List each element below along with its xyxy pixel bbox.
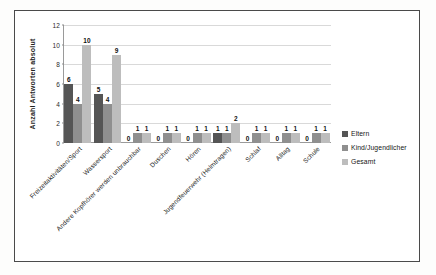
bar-value-label: 0	[186, 136, 190, 143]
bar: 1	[172, 133, 181, 143]
plot-wrapper: Anzahl Antworten absolut 024681012 64105…	[15, 11, 421, 263]
bar: 1	[291, 133, 300, 143]
bar-value-label: 1	[285, 126, 289, 133]
x-axis-tick-label: Duschen	[149, 145, 173, 169]
bar-value-label: 0	[305, 136, 309, 143]
bar-value-label: 0	[246, 136, 250, 143]
bar-value-label: 1	[294, 126, 298, 133]
bar: 5	[94, 94, 103, 143]
bar: 1	[321, 133, 330, 143]
bar-value-label: 9	[115, 48, 119, 55]
figure: Anzahl Antworten absolut 024681012 64105…	[0, 0, 436, 275]
bar-value-label: 1	[174, 126, 178, 133]
bar: 1	[282, 133, 291, 143]
y-tick-label: 8	[56, 61, 60, 68]
bar-value-label: 4	[76, 97, 80, 104]
bar-value-label: 0	[156, 136, 160, 143]
bar: 6	[64, 84, 73, 143]
legend-label: Eltern	[351, 130, 369, 137]
y-tick-label: 10	[53, 41, 60, 48]
bar-groups: 6410549011011011112011011011	[63, 25, 331, 143]
y-tick-label: 0	[56, 140, 60, 147]
x-axis-tick-label: Jugendfeuerwehr (Helmtragen)	[161, 145, 232, 216]
bar-value-label: 1	[195, 126, 199, 133]
bar: 1	[261, 133, 270, 143]
bar-value-label: 10	[83, 38, 90, 45]
bar-value-label: 1	[204, 126, 208, 133]
legend-item: Kind/Jugendlicher	[342, 143, 418, 152]
legend-swatch-icon	[342, 131, 348, 137]
legend-label: Gesamt	[351, 158, 375, 165]
bar: 1	[193, 133, 202, 143]
bar: 9	[112, 55, 121, 144]
legend-swatch-icon	[342, 159, 348, 165]
x-axis-tick-label: Hören	[184, 145, 202, 163]
bar-value-label: 1	[255, 126, 259, 133]
bar: 10	[82, 45, 91, 143]
bar: 1	[202, 133, 211, 143]
x-axis-tick-label: Alltag	[274, 145, 291, 162]
figure-frame: Anzahl Antworten absolut 024681012 64105…	[14, 10, 420, 262]
x-axis-tick-label: Schule	[302, 145, 321, 164]
bar-group: 112	[212, 25, 242, 143]
bar: 1	[163, 133, 172, 143]
bar-value-label: 1	[323, 126, 327, 133]
bar-value-label: 1	[136, 126, 140, 133]
legend-label: Kind/Jugendlicher	[351, 144, 407, 151]
bar-value-label: 2	[234, 116, 238, 123]
bar-value-label: 4	[106, 97, 110, 104]
bar-group: 549	[93, 25, 123, 143]
bar-value-label: 1	[264, 126, 268, 133]
bar: 1	[142, 133, 151, 143]
y-axis-label: Anzahl Antworten absolut	[29, 25, 41, 143]
bar: 1	[222, 133, 231, 143]
bar-value-label: 0	[127, 136, 131, 143]
x-axis-tick-label: Wassersport	[81, 145, 112, 176]
bar-value-label: 1	[165, 126, 169, 133]
bar-value-label: 1	[145, 126, 149, 133]
bar-value-label: 0	[276, 136, 280, 143]
bar-group: 011	[182, 25, 212, 143]
bar: 1	[213, 133, 222, 143]
legend-item: Eltern	[342, 129, 418, 138]
bar: 1	[133, 133, 142, 143]
bar-group: 6410	[63, 25, 93, 143]
bar: 4	[103, 104, 112, 143]
x-axis-tick-label: Freizeitaktivitäten/Sport	[28, 145, 83, 200]
legend-item: Gesamt	[342, 157, 418, 166]
bar-group: 011	[271, 25, 301, 143]
y-tick-label: 6	[56, 81, 60, 88]
bar-value-label: 1	[225, 126, 229, 133]
bar-group: 011	[301, 25, 331, 143]
bar: 1	[252, 133, 261, 143]
bar-value-label: 1	[216, 126, 220, 133]
bar: 4	[73, 104, 82, 143]
y-tick-label: 2	[56, 120, 60, 127]
y-tick-label: 4	[56, 100, 60, 107]
bar: 1	[312, 133, 321, 143]
bar-value-label: 6	[67, 77, 71, 84]
bar-group: 011	[123, 25, 153, 143]
legend-swatch-icon	[342, 145, 348, 151]
bar-value-label: 5	[97, 87, 101, 94]
bar-value-label: 1	[314, 126, 318, 133]
x-axis-tick-label: Schlaf	[243, 145, 261, 163]
legend: ElternKind/JugendlicherGesamt	[342, 129, 418, 171]
bar-group: 011	[152, 25, 182, 143]
y-tick-label: 12	[53, 22, 60, 29]
bar: 2	[231, 123, 240, 143]
bar-group: 011	[242, 25, 272, 143]
